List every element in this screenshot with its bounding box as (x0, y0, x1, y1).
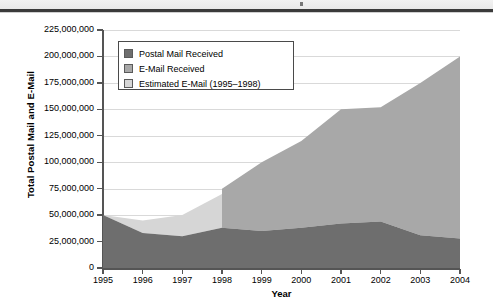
scan-artifact-mark (300, 2, 303, 6)
legend-swatch-estimated-email (124, 79, 133, 88)
legend-item-postal-mail: Postal Mail Received (124, 46, 288, 61)
legend-swatch-postal-mail (124, 49, 133, 58)
legend-label-postal-mail: Postal Mail Received (139, 49, 223, 59)
legend-swatch-email (124, 64, 133, 73)
chart-figure: Total Postal Mail and E-Mail 025,000,000… (0, 13, 493, 295)
legend-label-estimated-email: Estimated E-Mail (1995–1998) (139, 79, 261, 89)
legend-label-email: E-Mail Received (139, 64, 205, 74)
x-axis-title: Year (103, 288, 460, 299)
chart-legend: Postal Mail Received E-Mail Received Est… (118, 41, 294, 90)
page-top-strip (0, 0, 493, 9)
legend-item-email: E-Mail Received (124, 61, 288, 76)
legend-item-estimated-email: Estimated E-Mail (1995–1998) (124, 76, 288, 91)
